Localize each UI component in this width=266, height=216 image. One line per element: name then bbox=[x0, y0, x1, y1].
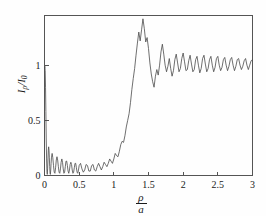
plot-frame bbox=[45, 16, 253, 176]
x-tick-label: 2.5 bbox=[212, 179, 225, 190]
x-axis-label: ρ a bbox=[128, 192, 154, 215]
plot-canvas: 00.511.522.53 00.51 bbox=[0, 0, 266, 216]
y-axis-label: Iρ/I0 bbox=[16, 64, 29, 104]
y-label-num-subscript: ρ bbox=[20, 86, 29, 90]
intensity-curve bbox=[45, 19, 253, 175]
y-label-divider: / bbox=[15, 83, 27, 86]
x-tick-label: 2 bbox=[181, 179, 186, 190]
x-label-numerator: ρ bbox=[128, 192, 154, 203]
y-tick-label: 0 bbox=[36, 170, 41, 181]
x-tick-label: 1 bbox=[111, 179, 116, 190]
y-tick-label: 0.5 bbox=[28, 115, 41, 126]
x-tick-label: 3 bbox=[250, 179, 255, 190]
x-tick-label: 0.5 bbox=[73, 179, 86, 190]
x-label-denominator: a bbox=[128, 204, 154, 215]
y-tick-label: 1 bbox=[36, 60, 41, 71]
y-label-den-subscript: 0 bbox=[20, 75, 29, 79]
figure-container: 00.511.522.53 00.51 Iρ/I0 ρ a bbox=[0, 0, 266, 216]
y-label-num-symbol: I bbox=[15, 89, 27, 93]
y-label-den-symbol: I bbox=[15, 79, 27, 83]
x-tick-label: 1.5 bbox=[142, 179, 155, 190]
x-tick-label: 0 bbox=[42, 179, 47, 190]
x-axis-ticks: 00.511.522.53 bbox=[42, 172, 255, 190]
